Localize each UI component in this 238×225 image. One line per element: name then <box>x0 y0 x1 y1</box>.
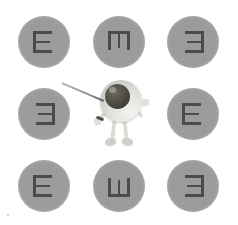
tumbling-e-icon <box>33 103 55 125</box>
optotype-circle-bottom-right[interactable] <box>167 160 219 212</box>
iris-pupil <box>105 84 130 109</box>
tumbling-e-icon <box>33 175 55 197</box>
optotype-circle-middle-left[interactable] <box>18 88 70 140</box>
eyeball-mascot[interactable] <box>92 80 154 152</box>
left-foot <box>105 137 117 145</box>
pointer-stick <box>61 82 104 101</box>
optotype-circle-top-right[interactable] <box>167 16 219 68</box>
optotype-circle-top-center[interactable] <box>93 16 145 68</box>
tumbling-e-icon <box>108 31 130 53</box>
eyeball-body <box>100 80 142 122</box>
tumbling-e-icon <box>108 175 130 197</box>
tumbling-e-icon <box>182 175 204 197</box>
optotype-circle-middle-right[interactable] <box>167 88 219 140</box>
tumbling-e-icon <box>182 31 204 53</box>
optotype-circle-top-left[interactable] <box>18 16 70 68</box>
right-hand <box>142 99 149 106</box>
right-foot <box>122 137 134 145</box>
image-speck <box>7 214 9 216</box>
eye-chart-scene <box>0 0 238 225</box>
tumbling-e-icon <box>33 31 55 53</box>
optotype-circle-bottom-left[interactable] <box>18 160 70 212</box>
tumbling-e-icon <box>182 103 204 125</box>
optotype-circle-bottom-center[interactable] <box>93 160 145 212</box>
